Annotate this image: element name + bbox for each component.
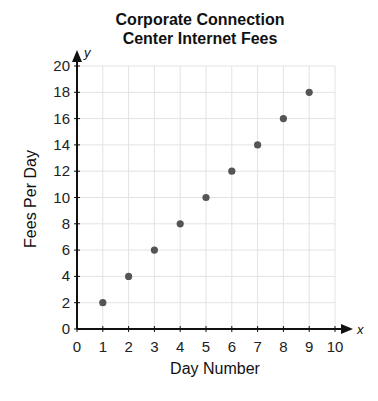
x-tick-label: 1: [99, 338, 107, 355]
y-tick-label: 18: [53, 83, 70, 100]
x-tick-label: 8: [279, 338, 287, 355]
data-point: [280, 115, 287, 122]
y-tick-label: 8: [62, 215, 70, 232]
x-axis-symbol: x: [356, 322, 364, 337]
x-tick-label: 10: [327, 338, 344, 355]
x-tick-label: 3: [150, 338, 158, 355]
x-tick-label: 6: [228, 338, 236, 355]
y-tick-label: 4: [62, 267, 70, 284]
data-point: [177, 220, 184, 227]
x-tick-label: 2: [124, 338, 132, 355]
y-tick-label: 2: [62, 294, 70, 311]
scatter-plot: xy01234567891002468101214161820: [0, 0, 378, 401]
data-point: [151, 247, 158, 254]
x-tick-label: 7: [253, 338, 261, 355]
x-tick-label: 4: [176, 338, 184, 355]
y-tick-label: 0: [62, 320, 70, 337]
x-tick-label: 0: [73, 338, 81, 355]
y-tick-label: 16: [53, 110, 70, 127]
data-point: [254, 141, 261, 148]
x-tick-label: 9: [305, 338, 313, 355]
y-tick-label: 20: [53, 57, 70, 74]
data-point: [306, 89, 313, 96]
y-tick-label: 14: [53, 136, 70, 153]
y-tick-label: 12: [53, 162, 70, 179]
y-axis-label: Fees Per Day: [22, 144, 40, 254]
data-point: [125, 273, 132, 280]
data-point: [99, 299, 106, 306]
y-tick-label: 6: [62, 241, 70, 258]
data-point: [202, 194, 209, 201]
y-axis-symbol: y: [83, 45, 92, 60]
data-point: [228, 168, 235, 175]
y-axis-arrow-icon: [72, 50, 82, 62]
x-tick-label: 5: [202, 338, 210, 355]
x-axis-label: Day Number: [150, 360, 280, 378]
x-axis-arrow-icon: [341, 324, 353, 334]
y-tick-label: 10: [53, 189, 70, 206]
